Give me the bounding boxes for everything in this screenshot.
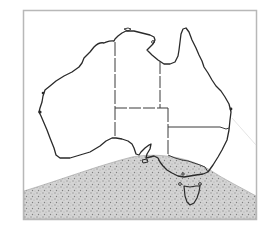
coast-marker bbox=[230, 108, 233, 111]
coast-marker bbox=[42, 92, 45, 95]
australia-map bbox=[0, 0, 272, 234]
coast-marker bbox=[38, 110, 41, 113]
